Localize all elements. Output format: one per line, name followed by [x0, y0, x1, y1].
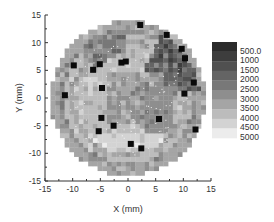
heatmap-cell — [149, 81, 154, 86]
heatmap-cell — [88, 119, 93, 124]
heatmap-cell — [168, 86, 173, 91]
colorbar-swatch — [212, 128, 237, 138]
heatmap-cell — [51, 86, 56, 91]
heatmap-cell — [83, 53, 88, 58]
heatmap-cell — [126, 81, 131, 86]
plot-area — [51, 20, 207, 176]
heatmap-cell — [126, 48, 131, 53]
speckle — [93, 63, 94, 64]
heatmap-cell — [88, 30, 93, 35]
heatmap-cell — [83, 48, 88, 53]
speckle — [108, 84, 109, 85]
heatmap-cell — [79, 157, 84, 162]
heatmap-cell — [69, 133, 74, 138]
heatmap-cell — [159, 124, 164, 129]
heatmap-cell — [140, 44, 145, 49]
speckle — [82, 109, 83, 110]
heatmap-cell — [60, 58, 65, 63]
heatmap-cell — [140, 166, 145, 171]
defect-marker — [193, 127, 199, 133]
speckle — [83, 85, 84, 86]
heatmap-cell — [74, 39, 79, 44]
speckle — [110, 87, 111, 88]
heatmap-cell — [159, 96, 164, 101]
heatmap-cell — [69, 128, 74, 133]
heatmap-cell — [112, 72, 117, 77]
heatmap-cell — [93, 143, 98, 148]
heatmap-cell — [102, 147, 107, 152]
heatmap-cell — [196, 77, 201, 82]
heatmap-cell — [187, 96, 192, 101]
heatmap-cell — [102, 25, 107, 30]
heatmap-cell — [163, 114, 168, 119]
heatmap-cell — [173, 143, 178, 148]
speckle — [130, 147, 131, 148]
heatmap-cell — [182, 105, 187, 110]
heatmap-cell — [121, 105, 126, 110]
heatmap-cell — [130, 48, 135, 53]
heatmap-cell — [163, 128, 168, 133]
heatmap-cell — [192, 105, 197, 110]
heatmap-cell — [149, 133, 154, 138]
heatmap-cell — [121, 30, 126, 35]
heatmap-cell — [83, 91, 88, 96]
heatmap-cell — [178, 152, 183, 157]
heatmap-cell — [168, 157, 173, 162]
heatmap-cell — [93, 161, 98, 166]
heatmap-cell — [121, 39, 126, 44]
colorbar-label: 1000 — [240, 55, 259, 65]
heatmap-cell — [126, 133, 131, 138]
heatmap-cell — [182, 147, 187, 152]
speckle — [174, 76, 175, 77]
heatmap-cell — [102, 34, 107, 39]
heatmap-cell — [112, 128, 117, 133]
heatmap-cell — [182, 81, 187, 86]
defect-marker — [71, 62, 77, 68]
heatmap-cell — [173, 86, 178, 91]
heatmap-cell — [65, 63, 70, 68]
heatmap-cell — [83, 143, 88, 148]
heatmap-cell — [192, 86, 197, 91]
heatmap-cell — [130, 124, 135, 129]
heatmap-cell — [83, 44, 88, 49]
speckle — [82, 93, 83, 94]
heatmap-cell — [88, 114, 93, 119]
heatmap-cell — [116, 81, 121, 86]
heatmap-cell — [149, 152, 154, 157]
heatmap-cell — [79, 77, 84, 82]
heatmap-cell — [60, 81, 65, 86]
heatmap-cell — [98, 48, 103, 53]
heatmap-cell — [102, 138, 107, 143]
heatmap-cell — [140, 119, 145, 124]
heatmap-cell — [116, 147, 121, 152]
heatmap-cell — [55, 124, 60, 129]
defect-marker — [137, 22, 143, 28]
heatmap-cell — [107, 152, 112, 157]
heatmap-cell — [98, 166, 103, 171]
heatmap-cell — [145, 128, 150, 133]
heatmap-cell — [145, 72, 150, 77]
heatmap-cell — [93, 110, 98, 115]
heatmap-cell — [121, 133, 126, 138]
heatmap-cell — [79, 86, 84, 91]
heatmap-cell — [69, 91, 74, 96]
wafer-heatmap-chart: -15-10-5051015-15-10-5051015 500.0100015… — [0, 0, 274, 222]
heatmap-cell — [65, 81, 70, 86]
heatmap-cell — [163, 110, 168, 115]
heatmap-cell — [74, 133, 79, 138]
heatmap-cell — [173, 34, 178, 39]
heatmap-cell — [187, 110, 192, 115]
heatmap-cell — [79, 63, 84, 68]
heatmap-cell — [182, 77, 187, 82]
heatmap-cell — [130, 133, 135, 138]
heatmap-cell — [149, 72, 154, 77]
heatmap-cell — [60, 124, 65, 129]
colorbar-label: 500.0 — [240, 46, 262, 56]
heatmap-cell — [135, 100, 140, 105]
heatmap-cell — [88, 81, 93, 86]
speckle — [135, 121, 136, 122]
y-tick-label: -10 — [29, 148, 42, 158]
heatmap-cell — [51, 114, 56, 119]
heatmap-cell — [145, 143, 150, 148]
heatmap-cell — [74, 44, 79, 49]
